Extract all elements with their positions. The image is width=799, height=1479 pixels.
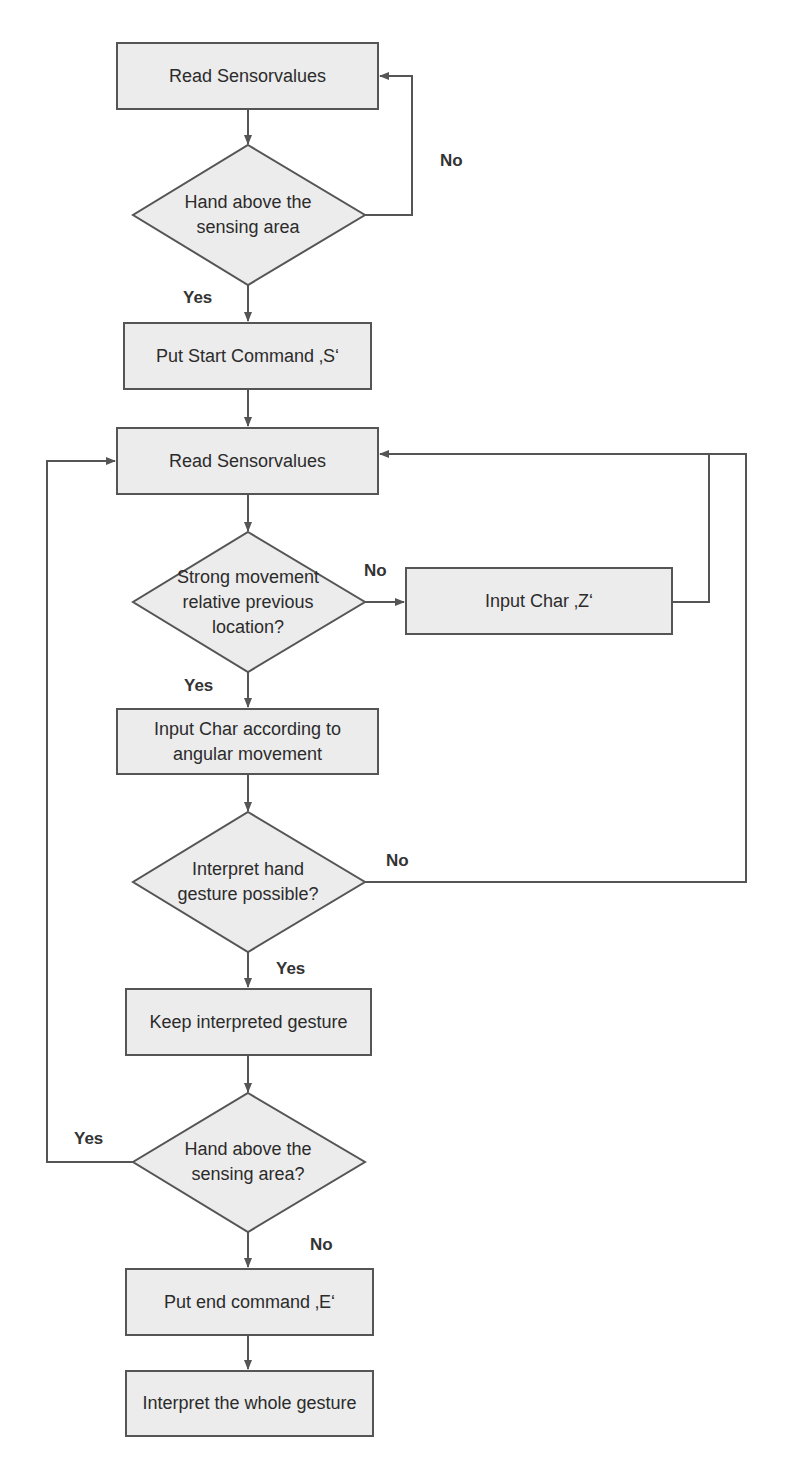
decision-hand-above-1-label: Hand above the sensing area — [163, 185, 333, 245]
process-read-sensorvalues-2: Read Sensorvalues — [116, 427, 379, 495]
node-label: Interpret hand gesture possible? — [163, 857, 333, 907]
process-input-char-z: Input Char ‚Z‘ — [405, 567, 673, 635]
node-label: Hand above the sensing area — [163, 190, 333, 240]
edge-label-no-3: No — [386, 851, 409, 871]
decision-interpret-possible-label: Interpret hand gesture possible? — [163, 852, 333, 912]
edge-label-no-2: No — [364, 561, 387, 581]
node-label: Input Char according to angular movement — [124, 717, 371, 767]
process-input-char-angular: Input Char according to angular movement — [116, 708, 379, 775]
edge-label-no-4: No — [310, 1235, 333, 1255]
process-interpret-whole: Interpret the whole gesture — [125, 1370, 374, 1437]
process-put-start-command: Put Start Command ‚S‘ — [123, 322, 372, 390]
edge-label-yes-4: Yes — [74, 1129, 103, 1149]
edge-label-yes-2: Yes — [184, 676, 213, 696]
process-put-end-command: Put end command ‚E‘ — [125, 1268, 374, 1336]
decision-hand-above-2-label: Hand above the sensing area? — [163, 1132, 333, 1192]
node-label: Put end command ‚E‘ — [164, 1290, 335, 1315]
node-label: Strong movement relative previous locati… — [160, 565, 336, 640]
process-read-sensorvalues-1: Read Sensorvalues — [116, 42, 379, 110]
edge-label-yes-3: Yes — [276, 959, 305, 979]
node-label: Hand above the sensing area? — [163, 1137, 333, 1187]
node-label: Interpret the whole gesture — [142, 1391, 356, 1416]
node-label: Read Sensorvalues — [169, 449, 326, 474]
node-label: Read Sensorvalues — [169, 64, 326, 89]
edge-label-yes-1: Yes — [183, 288, 212, 308]
process-keep-gesture: Keep interpreted gesture — [125, 988, 372, 1056]
edge-label-no-1: No — [440, 151, 463, 171]
node-label: Input Char ‚Z‘ — [485, 589, 593, 614]
node-label: Put Start Command ‚S‘ — [156, 344, 339, 369]
node-label: Keep interpreted gesture — [149, 1010, 347, 1035]
decision-strong-movement-label: Strong movement relative previous locati… — [160, 562, 336, 642]
